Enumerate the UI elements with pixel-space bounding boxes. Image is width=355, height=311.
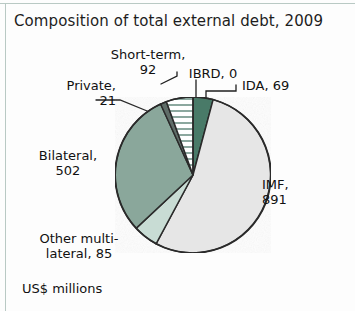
- pie-label-private: Private, 21: [36, 78, 116, 108]
- pie-label-bilateral: Bilateral, 502: [22, 148, 114, 178]
- pie-label-ibrd: IBRD, 0: [176, 66, 250, 81]
- chart-footnote: US$ millions: [22, 281, 102, 296]
- pie-label-ida: IDA, 69: [242, 78, 324, 93]
- leader-line-ida: [206, 85, 236, 99]
- chart-figure: Composition of total external debt, 2009: [0, 0, 355, 311]
- pie-label-other-multilateral: Other multi- lateral, 85: [24, 231, 134, 261]
- pie-label-imf: IMF, 891: [262, 177, 326, 207]
